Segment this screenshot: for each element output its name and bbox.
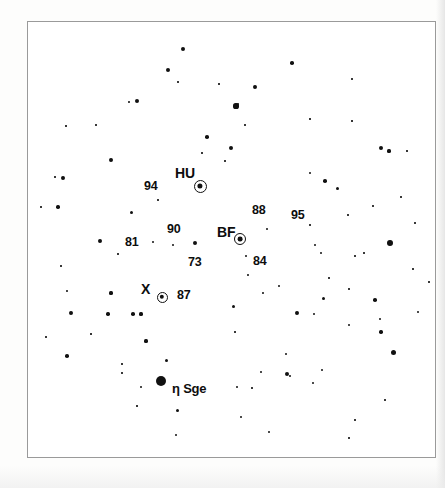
field-star [177,81,179,83]
field-star [157,199,159,201]
field-star [201,152,203,154]
field-star [181,47,185,51]
field-star [268,431,270,433]
field-star [54,176,56,178]
variable-star-label-hu: HU [175,166,195,180]
field-star [236,386,238,388]
field-star [193,241,198,246]
field-star [309,224,311,226]
field-star [117,253,119,255]
field-star [140,386,142,388]
field-star [152,241,154,243]
field-star [224,160,226,162]
field-star [106,312,109,315]
field-star [121,363,123,365]
field-star [66,290,68,292]
field-star [260,371,263,374]
variable-star-label-x: X [141,282,150,296]
field-star [412,268,414,270]
field-star [351,78,353,80]
field-star [414,222,416,224]
field-star [245,255,247,257]
comparison-star-label-88: 88 [252,204,266,217]
field-star [69,311,73,315]
field-star [135,99,139,103]
field-star [229,146,233,150]
field-star [387,149,390,152]
variable-star-core [197,183,202,188]
field-star [354,419,356,421]
field-star [144,339,147,342]
field-star [262,292,264,294]
starfield: HUBFX9488959081738487η Sge [28,22,435,457]
field-star [65,125,66,126]
field-star [348,437,350,439]
field-star [322,297,325,300]
field-star [309,118,310,119]
field-star [121,372,123,374]
field-star [363,252,365,254]
field-star [372,205,374,207]
comparison-star-label-84: 84 [253,255,267,268]
field-star [400,196,402,198]
field-star [351,120,352,121]
field-star [289,375,291,377]
field-star [251,387,253,389]
field-star [295,311,299,315]
field-star [336,187,339,190]
field-star [166,68,170,72]
chart-frame-border: HUBFX9488959081738487η Sge [27,21,436,458]
field-star [348,324,350,326]
comparison-star-label-87: 87 [177,289,191,302]
variable-star-core [160,295,164,299]
field-star [139,312,142,315]
field-star [285,353,287,355]
variable-star-marker-bf [234,233,246,245]
field-star [391,350,396,355]
field-star [314,244,316,246]
field-star [237,103,239,105]
field-star [165,359,168,362]
field-star [253,85,257,89]
field-star [60,265,62,267]
field-star [218,83,219,84]
field-star [244,124,246,126]
field-star [347,214,349,216]
field-star [109,291,112,294]
field-star [348,288,350,290]
field-star [321,369,323,371]
field-star [45,336,47,338]
field-star [95,124,97,126]
field-star [328,277,330,279]
field-star [387,240,393,246]
field-star [313,313,315,315]
field-star [172,244,174,246]
variable-star-label-bf: BF [217,225,235,239]
field-star [354,255,356,257]
field-star [323,179,327,183]
bright-star-eta-sge [156,376,166,386]
field-star [320,252,323,255]
field-star [90,333,91,334]
field-star [379,330,382,333]
field-star [175,434,178,437]
field-star [379,318,382,321]
star-chart-root: HUBFX9488959081738487η Sge [0,0,445,488]
field-star [278,285,280,287]
comparison-star-label-73: 73 [188,256,202,269]
field-star [98,239,102,243]
field-star [109,158,113,162]
field-star [136,405,137,406]
field-star [373,298,377,302]
comparison-star-label-95: 95 [291,209,305,222]
field-star [176,409,179,412]
field-star [205,135,209,139]
variable-star-core [238,237,243,242]
field-star [417,311,420,314]
field-star [428,281,430,283]
field-star [234,331,236,333]
field-star [406,150,407,151]
field-star [379,146,384,151]
field-star [266,228,268,230]
comparison-star-label-94: 94 [144,180,158,193]
